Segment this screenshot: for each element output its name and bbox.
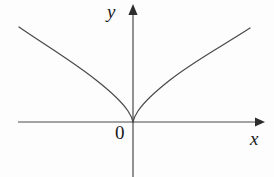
y-axis-label: y (107, 2, 115, 21)
curve-left-branch (19, 27, 133, 122)
origin-label: 0 (115, 123, 125, 142)
graph-figure: y x 0 (0, 0, 274, 177)
plot-canvas (0, 0, 274, 177)
x-axis-arrow-icon (255, 118, 265, 127)
curve-right-branch (133, 28, 250, 122)
x-axis-label: x (250, 129, 258, 148)
y-axis-arrow-icon (128, 4, 137, 15)
